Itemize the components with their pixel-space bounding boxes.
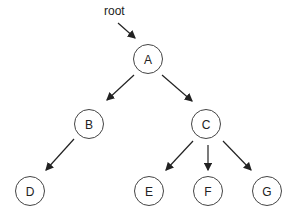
svg-text:F: F — [204, 185, 211, 199]
svg-text:D: D — [26, 185, 35, 199]
edge-c-e — [166, 141, 193, 170]
svg-text:G: G — [262, 185, 271, 199]
edge-c-g — [223, 141, 251, 170]
edge-a-c — [162, 75, 192, 101]
node-c: C — [192, 110, 221, 139]
node-b: B — [75, 110, 104, 139]
tree-diagram: root A B C D E F G — [0, 0, 293, 216]
node-e: E — [135, 177, 164, 206]
node-d: D — [16, 177, 45, 206]
svg-text:A: A — [144, 53, 152, 67]
node-g: G — [253, 177, 282, 206]
node-a: A — [134, 45, 163, 74]
edge-b-d — [46, 139, 74, 170]
svg-text:C: C — [202, 118, 211, 132]
root-pointer-label: root — [104, 4, 125, 18]
svg-text:E: E — [145, 185, 153, 199]
svg-text:B: B — [85, 118, 93, 132]
root-pointer-arrow — [118, 23, 135, 38]
node-f: F — [194, 177, 223, 206]
edge-a-b — [107, 75, 134, 100]
